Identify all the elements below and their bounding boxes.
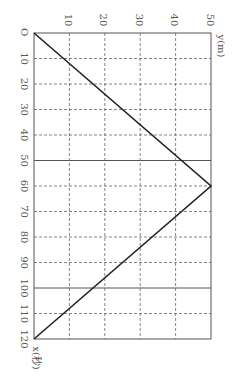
grid bbox=[34, 33, 211, 339]
origin-label: O bbox=[19, 28, 30, 36]
y-tick-20: 20 bbox=[98, 14, 109, 27]
x-tick-50: 50 bbox=[19, 154, 30, 167]
x-tick-80: 80 bbox=[19, 231, 30, 244]
distance-time-chart: O1020304050607080901001101201020304050y(… bbox=[0, 0, 237, 388]
x-tick-40: 40 bbox=[19, 129, 30, 142]
x-tick-30: 30 bbox=[19, 103, 30, 116]
x-tick-90: 90 bbox=[19, 256, 30, 269]
x-tick-100: 100 bbox=[19, 278, 30, 297]
x-tick-70: 70 bbox=[19, 205, 30, 218]
x-axis-title: x(秒) bbox=[31, 346, 43, 370]
x-tick-20: 20 bbox=[19, 78, 30, 91]
y-tick-50: 50 bbox=[205, 14, 216, 27]
x-tick-10: 10 bbox=[19, 52, 30, 65]
x-tick-60: 60 bbox=[19, 180, 30, 193]
y-axis-title: y(m) bbox=[216, 34, 227, 58]
axis-labels: O1020304050607080901001101201020304050y(… bbox=[19, 14, 227, 370]
x-tick-110: 110 bbox=[19, 304, 30, 323]
x-tick-120: 120 bbox=[19, 329, 30, 348]
y-tick-10: 10 bbox=[63, 14, 74, 27]
y-tick-40: 40 bbox=[169, 14, 180, 27]
y-tick-30: 30 bbox=[134, 14, 145, 27]
